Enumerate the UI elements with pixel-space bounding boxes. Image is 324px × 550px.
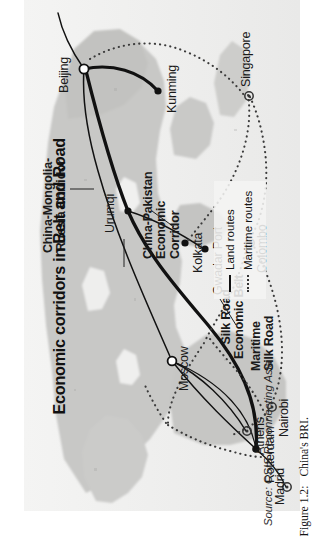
figure-title: Economic corridors in Belt and Road [50,105,69,415]
legend-item-maritime-routes: Maritime routes [242,191,254,292]
corridor-label-cpec: China-Pakistan Economic Corridor [142,171,182,259]
legend-label-maritime-routes: Maritime routes [242,191,254,270]
city-label-kunming: Kunming [166,65,179,113]
city-label-nairobi: Nairobi [278,399,291,437]
figure-caption: Figure 1.2:China's BRI. [298,327,311,537]
city-label-beijing: Beijing [58,57,71,93]
city-label-singapore: Singapore [240,32,253,87]
figure-source-note: Source: CSIS Reconnecting Asia [262,326,274,526]
legend-item-land-routes: Land routes [224,209,236,292]
dotted-line-icon [247,275,249,292]
figure-caption-number: Figure 1.2: [298,486,311,537]
figure-block: China-Mongolia- Russia Corridor Silk Roa… [0,0,324,550]
figure-caption-text: China's BRI. [298,417,311,476]
figure-page: China-Mongolia- Russia Corridor Silk Roa… [0,0,324,550]
city-label-moscow: Moscow [178,346,191,391]
legend: Land routes Maritime routes [214,181,266,299]
city-label-madrid: Madrid [274,468,287,505]
solid-line-icon [229,275,231,292]
city-label-kolkata: Kolkata [192,233,205,273]
legend-label-land-routes: Land routes [224,209,236,270]
city-label-urumqi: Urumqi [104,194,117,233]
